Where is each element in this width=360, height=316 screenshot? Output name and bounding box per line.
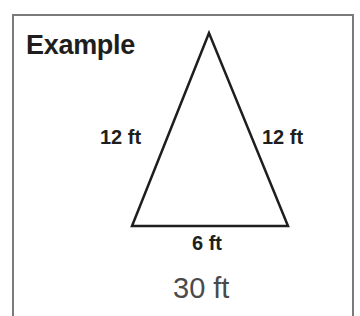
- perimeter-answer: 30 ft: [173, 272, 229, 305]
- base-label: 6 ft: [192, 232, 222, 255]
- right-side-label: 12 ft: [262, 126, 303, 149]
- left-side-label: 12 ft: [100, 126, 141, 149]
